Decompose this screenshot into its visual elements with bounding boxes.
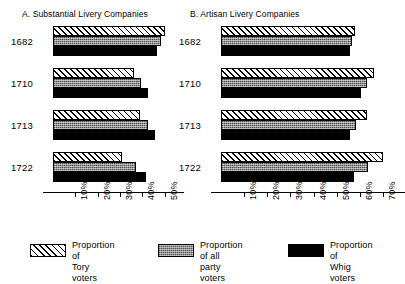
bar-all (221, 162, 368, 172)
bar-group: 1710 (168, 66, 400, 108)
bar-group: 1713 (0, 108, 195, 150)
x-axis-tick (337, 193, 338, 197)
legend-label-all-party: Proportion of all party voters (200, 240, 243, 284)
x-axis-tick (120, 193, 121, 197)
x-axis-tick-label: 30% (294, 181, 304, 200)
x-axis-tick (98, 193, 99, 197)
bar-all (53, 120, 148, 130)
x-axis-tick-label: 50% (341, 181, 351, 200)
x-axis-line (211, 192, 405, 193)
x-axis-tick (383, 193, 384, 197)
bar-group: 1722 (0, 150, 195, 192)
bar-whig (53, 46, 157, 56)
bar-tory (53, 26, 165, 36)
y-axis-tick-label: 1682 (179, 36, 201, 47)
bar-all (221, 120, 356, 130)
x-axis-tick-label: 70% (387, 181, 397, 200)
legend-swatch-whig (288, 244, 324, 257)
legend-label-whig: Proportion of Whig voters (330, 240, 373, 284)
bar-group: 1710 (0, 66, 195, 108)
bar-all (53, 36, 161, 46)
legend-swatch-all-party (158, 244, 194, 257)
x-axis-tick (165, 193, 166, 197)
x-axis-tick (75, 193, 76, 197)
x-axis-tick-label: 30% (124, 181, 134, 200)
panel-b-title: B. Artisan Livery Companies (190, 9, 299, 19)
bar-group: 1682 (168, 24, 400, 66)
x-axis-line (43, 192, 184, 193)
x-axis-tick-label: 60% (364, 181, 374, 200)
bar-tory (221, 68, 374, 78)
bar-all (53, 162, 136, 172)
x-axis-tick-label: 10% (79, 181, 89, 200)
panel-a-plot: 168217101713172210%20%30%40%50% (0, 24, 195, 194)
bar-whig (221, 172, 354, 182)
y-axis-tick-label: 1713 (179, 120, 201, 131)
y-axis-tick-label: 1713 (11, 120, 33, 131)
legend-label-tory: Proportion of Tory voters (72, 240, 115, 284)
bar-tory (53, 110, 140, 120)
chart-legend: Proportion of Tory voters Proportion of … (0, 240, 400, 280)
x-axis-tick-label: 20% (271, 181, 281, 200)
bar-all (221, 36, 352, 46)
panel-b-plot: 168217101713172210%20%30%40%50%60%70% (168, 24, 400, 194)
panel-a-title: A. Substantial Livery Companies (22, 9, 148, 19)
bar-group: 1682 (0, 24, 195, 66)
bar-all (53, 78, 141, 88)
bar-tory (221, 26, 355, 36)
x-axis-tick-label: 40% (318, 181, 328, 200)
bar-tory (221, 110, 367, 120)
y-axis-tick-label: 1722 (11, 162, 33, 173)
y-axis-tick-label: 1710 (179, 78, 201, 89)
x-axis-tick (244, 193, 245, 197)
legend-swatch-tory (30, 244, 66, 257)
bar-tory (53, 68, 134, 78)
x-axis-tick (267, 193, 268, 197)
bar-tory (53, 152, 122, 162)
bar-tory (221, 152, 383, 162)
x-axis-tick-label: 10% (248, 181, 258, 200)
x-axis-tick (142, 193, 143, 197)
x-axis-tick (314, 193, 315, 197)
bar-whig (53, 88, 148, 98)
bar-whig (221, 88, 361, 98)
x-axis-tick-label: 20% (102, 181, 112, 200)
x-axis-tick (360, 193, 361, 197)
x-axis-tick (290, 193, 291, 197)
y-axis-tick-label: 1682 (11, 36, 33, 47)
bar-group: 1713 (168, 108, 400, 150)
bar-all (221, 78, 367, 88)
bar-whig (221, 46, 350, 56)
y-axis-tick-label: 1710 (11, 78, 33, 89)
x-axis-tick-label: 40% (146, 181, 156, 200)
bar-whig (221, 130, 350, 140)
bar-whig (53, 130, 155, 140)
y-axis-tick-label: 1722 (179, 162, 201, 173)
